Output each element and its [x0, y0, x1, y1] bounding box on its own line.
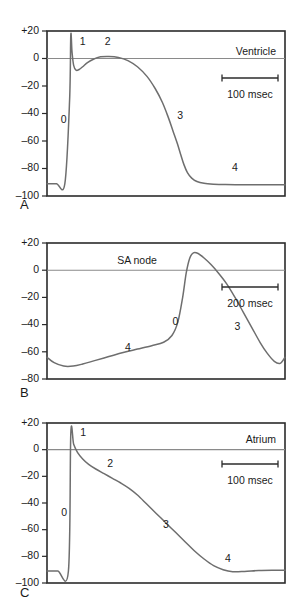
- y-axis-tick-label: +20: [21, 416, 39, 428]
- y-axis-tick-label: –20: [21, 79, 39, 91]
- phase-label-3: 3: [163, 518, 169, 530]
- y-axis-tick-label: +20: [21, 236, 39, 248]
- y-axis-tick-label: –40: [21, 496, 39, 508]
- y-axis-tick-label: –20: [21, 469, 39, 481]
- y-axis-tick-label: –80: [21, 161, 39, 173]
- y-axis-tick-label: –60: [21, 134, 39, 146]
- phase-label-1: 1: [80, 35, 86, 47]
- panel-b-sa-node: +200–20–40–60–80403SA node200 msecB: [0, 208, 303, 400]
- action-potential-figure: +200–20–40–60–80–10001234Ventricle100 ms…: [0, 0, 303, 599]
- phase-label-3: 3: [177, 109, 183, 121]
- phase-label-3: 3: [234, 320, 240, 332]
- panel-c-atrium: +200–20–40–60–80–10001234Atrium100 msecC: [0, 396, 303, 599]
- y-axis-tick-label: –60: [21, 345, 39, 357]
- phase-label-1: 1: [80, 426, 86, 438]
- y-axis-tick-label: +20: [21, 24, 39, 36]
- panel-letter: C: [20, 585, 29, 599]
- y-axis-tick-label: 0: [33, 51, 39, 63]
- phase-label-4: 4: [232, 161, 238, 173]
- phase-label-2: 2: [105, 35, 111, 47]
- phase-label-4: 4: [125, 341, 131, 353]
- y-axis-tick-label: –20: [21, 290, 39, 302]
- panel-a-plot: +200–20–40–60–80–10001234Ventricle100 ms…: [0, 0, 303, 210]
- panel-c-plot: +200–20–40–60–80–10001234Atrium100 msecC: [0, 396, 303, 599]
- tissue-label: Atrium: [246, 433, 277, 445]
- y-axis-tick-label: –80: [21, 372, 39, 384]
- y-axis-tick-label: 0: [33, 263, 39, 275]
- scale-bar-label: 100 msec: [227, 474, 273, 486]
- panel-b-plot: +200–20–40–60–80403SA node200 msecB: [0, 208, 303, 400]
- y-axis-tick-label: 0: [33, 442, 39, 454]
- tissue-label: SA node: [117, 254, 157, 266]
- plot-frame: [47, 423, 285, 583]
- phase-label-0: 0: [61, 506, 67, 518]
- action-potential-trace: [47, 252, 285, 366]
- y-axis-tick-label: –40: [21, 317, 39, 329]
- panel-a-ventricle: +200–20–40–60–80–10001234Ventricle100 ms…: [0, 0, 303, 210]
- phase-label-0: 0: [173, 315, 179, 327]
- phase-label-4: 4: [225, 552, 231, 564]
- phase-label-0: 0: [61, 113, 67, 125]
- y-axis-tick-label: –80: [21, 549, 39, 561]
- scale-bar-label: 200 msec: [227, 297, 273, 309]
- plot-frame: [47, 243, 285, 379]
- tissue-label: Ventricle: [236, 45, 276, 57]
- y-axis-tick-label: –40: [21, 106, 39, 118]
- y-axis-tick-label: –60: [21, 522, 39, 534]
- phase-label-2: 2: [107, 457, 113, 469]
- scale-bar-label: 100 msec: [227, 88, 273, 100]
